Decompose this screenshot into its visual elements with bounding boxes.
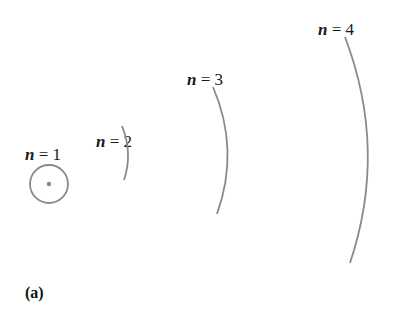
orbit-n3-label: n = 3 <box>187 70 223 89</box>
bohr-orbits-diagram: n = 1 n = 2 n = 3 n = 4 (a) <box>0 0 394 310</box>
orbit-n3: n = 3 <box>187 70 228 214</box>
orbit-n4-arc <box>345 37 368 263</box>
figure-caption: (a) <box>25 284 44 302</box>
orbit-n2: n = 2 <box>96 126 132 180</box>
orbit-n3-arc <box>213 87 228 214</box>
orbit-n1-label: n = 1 <box>25 145 61 164</box>
orbit-n4-label: n = 4 <box>318 20 355 39</box>
orbit-n1: n = 1 <box>25 145 68 203</box>
orbit-n4: n = 4 <box>318 20 368 263</box>
nucleus-dot <box>47 182 51 186</box>
